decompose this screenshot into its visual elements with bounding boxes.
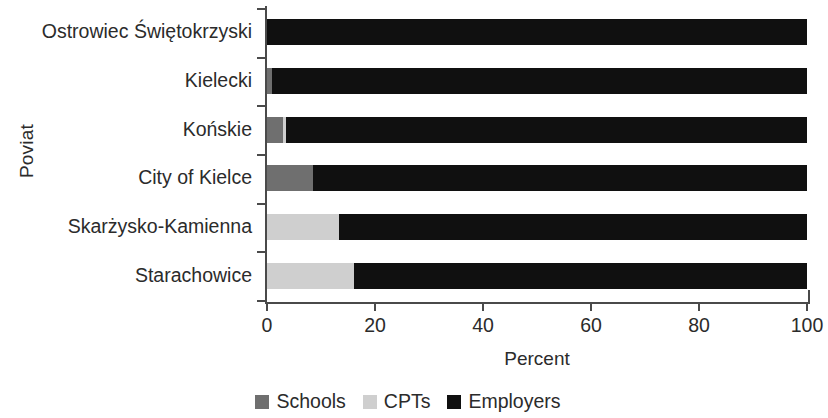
bar-segment-employers: [354, 263, 807, 289]
x-axis-tick-label: 0: [227, 314, 307, 337]
bar-3: [267, 117, 807, 143]
bar-1: [267, 19, 807, 45]
y-axis-tick: [257, 203, 266, 205]
y-axis-tick: [257, 8, 266, 10]
x-axis-tick: [482, 302, 484, 311]
legend-label: Employers: [468, 390, 560, 413]
x-axis-end-cap: [808, 290, 810, 304]
x-axis-tick-label: 80: [659, 314, 739, 337]
x-axis-tick: [266, 302, 268, 311]
y-axis-tick-label: City of Kielce: [2, 168, 252, 188]
bar-segment-employers: [267, 19, 807, 45]
x-axis-title: Percent: [267, 348, 807, 370]
legend-label: Schools: [276, 390, 345, 413]
y-axis-tick: [257, 105, 266, 107]
x-axis-tick-label: 20: [335, 314, 415, 337]
y-axis-tick-labels: Ostrowiec ŚwiętokrzyskiKieleckiKońskieCi…: [6, 8, 258, 300]
legend-item-employers: Employers: [447, 390, 560, 413]
y-axis-tick: [257, 300, 266, 302]
y-axis-tick: [257, 154, 266, 156]
x-axis-tick-label: 100: [767, 314, 828, 337]
x-axis-tick: [806, 302, 808, 311]
bar-segment-cpts: [267, 263, 354, 289]
bar-segment-employers: [286, 117, 807, 143]
bar-segment-employers: [313, 165, 807, 191]
legend-swatch-icon: [447, 395, 461, 409]
plot-area: 020406080100: [267, 8, 807, 300]
y-axis-tick-label: Końskie: [2, 120, 252, 140]
bar-6: [267, 263, 807, 289]
x-axis-line: [265, 302, 810, 304]
y-axis-tick-label: Kielecki: [2, 71, 252, 91]
bar-2: [267, 68, 807, 94]
y-axis-tick-label: Starachowice: [2, 266, 252, 286]
chart-legend: SchoolsCPTsEmployers: [0, 390, 816, 413]
legend-swatch-icon: [363, 395, 377, 409]
legend-item-cpts: CPTs: [363, 390, 431, 413]
x-axis-tick-label: 40: [443, 314, 523, 337]
bar-segment-schools: [267, 165, 313, 191]
y-axis-tick-label: Skarżysko-Kamienna: [2, 217, 252, 237]
x-axis-tick: [698, 302, 700, 311]
bar-segment-cpts: [267, 214, 339, 240]
y-axis-tick: [257, 57, 266, 59]
legend-swatch-icon: [255, 395, 269, 409]
bar-4: [267, 165, 807, 191]
bar-segment-employers: [272, 68, 807, 94]
y-axis-tick: [257, 251, 266, 253]
bar-segment-schools: [267, 117, 283, 143]
bar-5: [267, 214, 807, 240]
x-axis-tick: [590, 302, 592, 311]
x-axis-tick: [374, 302, 376, 311]
y-axis-tick-label: Ostrowiec Świętokrzyski: [2, 22, 252, 42]
bar-segment-employers: [339, 214, 807, 240]
legend-item-schools: Schools: [255, 390, 345, 413]
legend-label: CPTs: [384, 390, 431, 413]
x-axis-tick-label: 60: [551, 314, 631, 337]
